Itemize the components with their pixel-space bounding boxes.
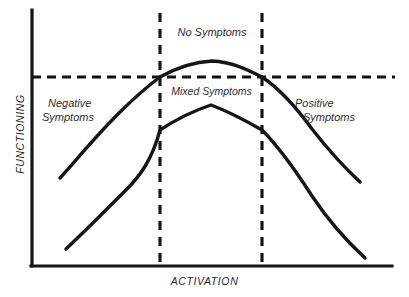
region-label-positive-symptoms-line2: Symptoms	[303, 110, 385, 124]
region-label-positive-symptoms: PositiveSymptoms	[295, 96, 385, 124]
y-axis-label: FUNCTIONING	[14, 89, 26, 179]
x-axis-label: ACTIVATION	[0, 275, 409, 287]
region-label-negative-symptoms-line1: Negative	[48, 97, 91, 109]
region-label-mixed-symptoms: Mixed Symptoms	[161, 84, 262, 98]
chart-plot-area	[0, 0, 409, 297]
lower-curve	[66, 105, 365, 258]
region-label-no-symptoms: No Symptoms	[166, 25, 258, 39]
region-label-positive-symptoms-line1: Positive	[295, 97, 334, 109]
region-label-negative-symptoms: NegativeSymptoms	[48, 96, 130, 124]
region-label-negative-symptoms-line2: Symptoms	[42, 110, 130, 124]
chart-figure: FUNCTIONING ACTIVATION No Symptoms Mixed…	[0, 0, 409, 297]
